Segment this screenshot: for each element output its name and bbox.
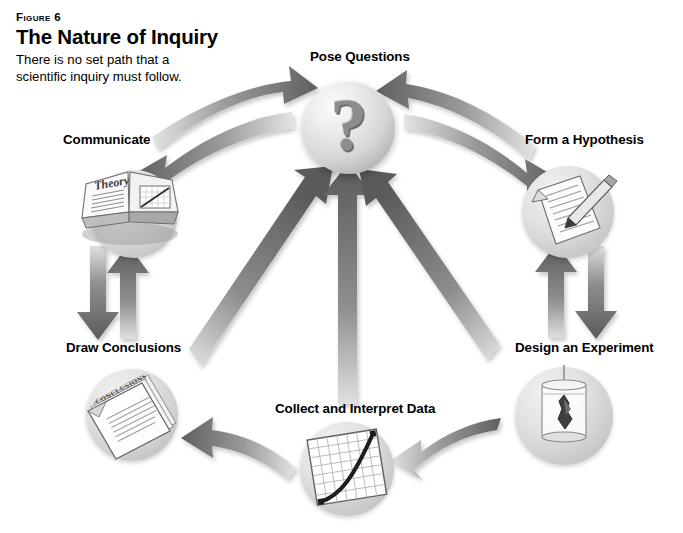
node-draw-conclusions[interactable]: CONCLUSIONS (66, 361, 192, 475)
arrow-draw-conclusions-to-pose-questions (189, 166, 333, 366)
label-draw-conclusions: Draw Conclusions (66, 340, 181, 356)
graph-grid-icon (292, 418, 404, 528)
label-design-an-experiment: Design an Experiment (515, 340, 654, 356)
label-communicate: Communicate (63, 132, 150, 148)
question-mark-icon: ? (303, 82, 395, 174)
node-form-a-hypothesis[interactable] (508, 156, 628, 264)
label-pose-questions: Pose Questions (310, 49, 410, 65)
open-book-icon (72, 156, 192, 264)
node-communicate[interactable]: Theory (72, 156, 192, 264)
beaker-crystal-icon (509, 361, 619, 471)
document-pencil-icon (508, 156, 628, 264)
node-collect-and-interpret-data[interactable] (292, 418, 404, 528)
arrow-design-experiment-to-collect-data (390, 418, 501, 480)
label-form-a-hypothesis: Form a Hypothesis (525, 132, 644, 148)
label-collect-and-interpret-data: Collect and Interpret Data (275, 401, 435, 417)
arrow-form-hypothesis-to-pose-questions (376, 70, 535, 160)
arrow-collect-data-to-pose-questions (323, 163, 372, 404)
node-design-an-experiment[interactable] (509, 361, 619, 471)
arrow-collect-data-to-draw-conclusions (181, 417, 296, 480)
figure-container: Figure 6 The Nature of Inquiry There is … (0, 0, 683, 533)
arrow-design-experiment-to-pose-questions (359, 169, 500, 360)
conclusions-papers-icon (66, 361, 192, 475)
